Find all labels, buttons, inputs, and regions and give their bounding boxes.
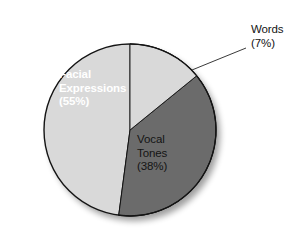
slice-label-facial-expressions: Facial Expressions (55%) [59, 68, 126, 109]
slice-label-facial-expressions-line1: Facial [59, 68, 126, 82]
slice-label-facial-expressions-line2: Expressions [59, 82, 126, 96]
slice-label-words-line1: Words [251, 23, 284, 37]
words-leader-line [192, 48, 246, 70]
pie-chart-figure: Facial Expressions (55%) Vocal Tones (38… [0, 0, 305, 244]
slice-value-facial-expressions: (55%) [59, 95, 126, 109]
slice-value-vocal-tones: (38%) [137, 160, 167, 174]
slice-label-words: Words (7%) [251, 23, 284, 50]
chart-plot-area: Facial Expressions (55%) Vocal Tones (38… [0, 0, 305, 244]
slice-label-vocal-tones: Vocal Tones (38%) [137, 133, 167, 174]
slice-label-vocal-tones-line2: Tones [137, 147, 167, 161]
slice-label-vocal-tones-line1: Vocal [137, 133, 167, 147]
slice-value-words: (7%) [251, 37, 284, 51]
